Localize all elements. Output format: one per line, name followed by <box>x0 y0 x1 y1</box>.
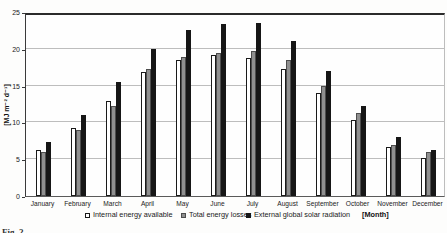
month-group-may <box>166 15 201 196</box>
legend: Internal energy availableTotal energy lo… <box>0 210 447 221</box>
y-tick-label: 10 <box>0 119 20 127</box>
bar-external-global-solar-radiation <box>116 82 121 196</box>
bar-external-global-solar-radiation <box>46 142 51 196</box>
bar-external-global-solar-radiation <box>431 150 436 196</box>
bar-external-global-solar-radiation <box>361 106 366 196</box>
month-group-june <box>201 15 236 196</box>
y-tick-label: 20 <box>0 46 20 54</box>
x-tick-label-june: June <box>200 199 235 208</box>
bar-external-global-solar-radiation <box>81 115 86 196</box>
month-group-september <box>306 15 341 196</box>
y-tick-label: 15 <box>0 83 20 91</box>
x-tick-label-july: July <box>235 199 270 208</box>
bar-external-global-solar-radiation <box>396 137 401 196</box>
y-tick-label: 5 <box>0 156 20 164</box>
x-tick-label-march: March <box>95 199 130 208</box>
legend-item-external-global-solar-radiation: External global solar radiation <box>246 210 350 220</box>
x-axis-title: [Month] <box>362 210 389 220</box>
x-tick-label-january: January <box>25 199 60 208</box>
x-tick-label-october: October <box>340 199 375 208</box>
y-tick-label: 25 <box>0 9 20 17</box>
legend-label: External global solar radiation <box>254 210 350 220</box>
legend-label: Internal energy available <box>93 210 173 220</box>
x-tick-label-august: August <box>270 199 305 208</box>
x-tick-label-september: September <box>305 199 340 208</box>
x-tick-label-february: February <box>60 199 95 208</box>
bar-external-global-solar-radiation <box>221 24 226 196</box>
month-group-august <box>271 15 306 196</box>
y-tick-mark <box>22 50 25 51</box>
x-tick-label-may: May <box>165 199 200 208</box>
month-group-december <box>411 15 446 196</box>
caption-fragment: Fig. 2 <box>2 227 24 233</box>
plot-area <box>25 13 445 197</box>
bar-chart: [MJ m⁻² d⁻¹] 0510152025 JanuaryFebruaryM… <box>0 0 447 233</box>
x-tick-label-november: November <box>375 199 410 208</box>
legend-item-total-energy-losses: Total energy losses <box>181 210 251 220</box>
figure-scan: [MJ m⁻² d⁻¹] 0510152025 JanuaryFebruaryM… <box>0 0 447 233</box>
legend-marker-icon <box>246 213 251 218</box>
y-tick-mark <box>22 87 25 88</box>
legend-marker-icon <box>181 213 186 218</box>
y-tick-mark <box>22 123 25 124</box>
month-group-january <box>26 15 61 196</box>
legend-marker-icon <box>85 213 90 218</box>
bar-external-global-solar-radiation <box>256 23 261 196</box>
month-group-february <box>61 15 96 196</box>
legend-item-internal-energy-available: Internal energy available <box>85 210 173 220</box>
month-group-march <box>96 15 131 196</box>
month-group-october <box>341 15 376 196</box>
x-tick-label-april: April <box>130 199 165 208</box>
bar-external-global-solar-radiation <box>151 49 156 196</box>
y-tick-mark <box>22 160 25 161</box>
bar-external-global-solar-radiation <box>186 30 191 196</box>
bar-external-global-solar-radiation <box>291 41 296 196</box>
legend-label: Total energy losses <box>189 210 251 220</box>
x-tick-label-december: December <box>410 199 445 208</box>
y-tick-mark <box>22 197 25 198</box>
bar-external-global-solar-radiation <box>326 71 331 196</box>
month-group-november <box>376 15 411 196</box>
month-group-april <box>131 15 166 196</box>
x-axis: JanuaryFebruaryMarchAprilMayJuneJulyAugu… <box>0 199 447 209</box>
y-tick-mark <box>22 13 25 14</box>
month-group-july <box>236 15 271 196</box>
